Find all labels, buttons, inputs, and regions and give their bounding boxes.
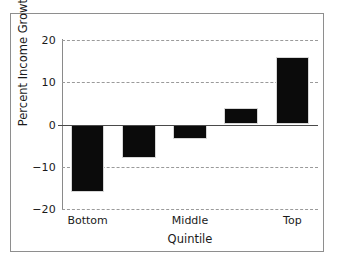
y-axis-tick-labels: 20100−10−20 (26, 40, 56, 209)
bar (224, 108, 258, 125)
x-axis-tick-labels: BottomMiddleTop (62, 214, 318, 230)
zero-line (58, 125, 318, 126)
gridline (62, 40, 318, 41)
bar (276, 57, 310, 125)
y-tick-label: 10 (26, 76, 56, 89)
plot-area (62, 40, 318, 209)
x-tick-label: Top (252, 214, 332, 227)
x-tick-label: Middle (150, 214, 230, 227)
y-tick-label: 0 (26, 118, 56, 131)
y-tick-label: −10 (26, 160, 56, 173)
gridline (62, 209, 318, 210)
bar (71, 125, 105, 193)
chart-figure: 20100−10−20 BottomMiddleTop Percent Inco… (0, 0, 337, 266)
x-axis-title: Quintile (62, 232, 318, 246)
y-tick-label: 20 (26, 34, 56, 47)
y-axis-title: Percent Income Growth (16, 0, 30, 144)
bar (122, 125, 156, 159)
bar (173, 125, 207, 140)
x-tick-label: Bottom (48, 214, 128, 227)
